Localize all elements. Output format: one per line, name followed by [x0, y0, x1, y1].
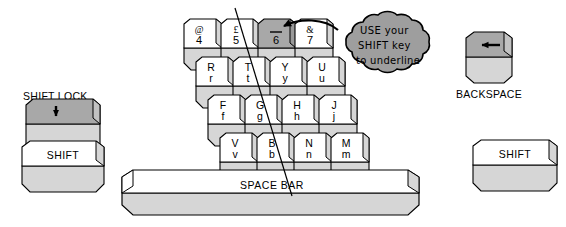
- key-g-lower: g: [257, 110, 263, 122]
- key-m-bevel: [363, 133, 369, 162]
- key-4-lower: 4: [196, 34, 202, 46]
- left-shift-key[interactable]: SHIFT: [22, 141, 104, 192]
- left-shift-key-skirt: [22, 166, 104, 192]
- left-shift-key-label: SHIFT: [47, 149, 80, 161]
- callout-line-3: to underline: [356, 55, 420, 66]
- key-h-lower: h: [294, 110, 300, 122]
- key-m-lower: m: [342, 148, 351, 160]
- key-6-lower: 6: [273, 34, 279, 46]
- diagram-canvas: SHIFT LOCK SHIFT BACKSPACE: [0, 0, 566, 227]
- right-shift-key-label: SHIFT: [499, 148, 532, 160]
- key-7-lower: 7: [307, 34, 313, 46]
- key-r-lower: r: [209, 72, 213, 84]
- key-b-lower: b: [269, 148, 275, 160]
- key-v-lower: v: [232, 148, 238, 160]
- key-5-lower: 5: [233, 34, 239, 46]
- right-shift-key-skirt: [473, 165, 557, 191]
- key-t-lower: t: [247, 72, 250, 84]
- key-f-lower: f: [222, 110, 225, 122]
- key-u-lower: u: [319, 72, 325, 84]
- left-key-cluster: SHIFT LOCK SHIFT: [22, 90, 104, 192]
- callout-line-2: SHIFT key: [358, 40, 411, 51]
- key-j-lower: j: [332, 110, 335, 122]
- space-bar[interactable]: SPACE BAR: [122, 170, 419, 215]
- backspace-key-group[interactable]: BACKSPACE: [456, 32, 522, 100]
- space-bar-label: SPACE BAR: [240, 179, 304, 191]
- key-u-bevel: [339, 57, 345, 86]
- right-shift-key[interactable]: SHIFT: [473, 140, 557, 191]
- key-n-lower: n: [306, 148, 312, 160]
- key-j-bevel: [351, 95, 357, 124]
- space-bar-skirt: [122, 193, 419, 215]
- callout-line-1: USE your: [360, 25, 409, 36]
- backspace-label: BACKSPACE: [456, 88, 522, 100]
- backspace-key-skirt: [466, 57, 512, 83]
- shift-lock-key-face: [26, 99, 100, 124]
- keyboard-diagram: SHIFT LOCK SHIFT BACKSPACE: [0, 0, 566, 227]
- key-y-lower: y: [282, 72, 288, 84]
